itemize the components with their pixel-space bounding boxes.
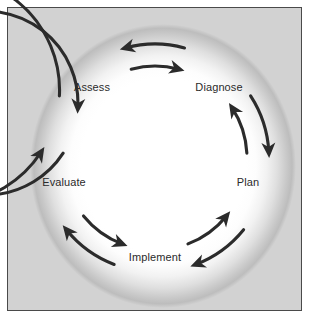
arrow-assess-to-evaluate: [0, 0, 60, 204]
node-label-plan[interactable]: Plan: [237, 177, 259, 188]
cycle-arrows: [0, 0, 310, 319]
arrow-implement-to-plan: [188, 216, 227, 244]
node-label-assess[interactable]: Assess: [74, 82, 110, 93]
diagram-canvas: Assess Diagnose Plan Implement Evaluate: [0, 0, 310, 319]
node-label-evaluate[interactable]: Evaluate: [42, 177, 86, 188]
arrow-evaluate-to-implement: [84, 216, 123, 244]
arrow-assess-to-diagnose: [131, 66, 179, 69]
arrow-diagnose-to-assess: [125, 44, 184, 48]
node-label-implement[interactable]: Implement: [129, 252, 181, 263]
arrow-plan-to-diagnose: [232, 108, 247, 153]
node-label-diagnose[interactable]: Diagnose: [195, 82, 242, 93]
arrow-evaluate-to-assess: [0, 11, 78, 195]
arrow-diagnose-to-plan: [251, 96, 269, 152]
